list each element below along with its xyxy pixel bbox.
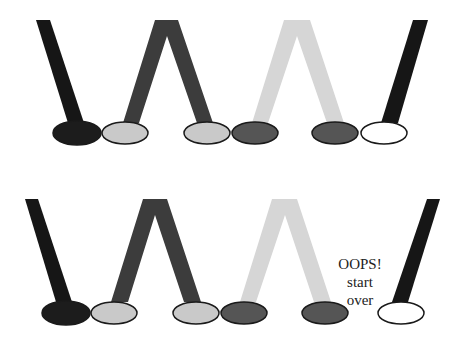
foot-light — [184, 122, 230, 144]
foot-white — [361, 122, 407, 144]
foot-dark — [232, 122, 278, 144]
oops-annotation: OOPS! start over — [328, 255, 392, 309]
foot-dark — [312, 122, 358, 144]
dark-lambda-leg — [111, 199, 201, 302]
foot-light — [173, 302, 219, 324]
top-row — [36, 20, 428, 145]
annotation-line-3: over — [328, 291, 392, 309]
dark-lambda-leg — [123, 20, 213, 123]
black-right-leg — [381, 20, 428, 123]
foot-black — [42, 301, 90, 325]
light-lambda-leg — [240, 199, 331, 302]
foot-dark — [221, 302, 267, 324]
black-left-leg — [25, 199, 72, 302]
black-left-leg — [36, 20, 84, 123]
black-right-leg — [392, 199, 440, 302]
light-lambda-leg — [252, 20, 344, 123]
foot-black — [53, 121, 101, 145]
annotation-line-1: OOPS! — [328, 255, 392, 273]
stepping-diagram — [0, 0, 466, 348]
annotation-line-2: start — [328, 273, 392, 291]
foot-light — [91, 302, 137, 324]
foot-light — [102, 122, 148, 144]
